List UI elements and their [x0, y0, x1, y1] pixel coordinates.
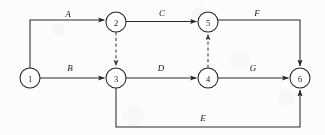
- edge-label-a: A: [64, 9, 71, 19]
- network-diagram-canvas: 1 2 3 4 5 6 A B C D E F G: [0, 0, 325, 135]
- edge-label-e: E: [199, 113, 206, 123]
- node-3[interactable]: 3: [106, 68, 126, 88]
- edge-label-g: G: [250, 63, 257, 73]
- edge-a-path: [30, 20, 105, 68]
- node-2[interactable]: 2: [106, 12, 126, 32]
- network-diagram-svg: 1 2 3 4 5 6 A B C D E F G: [0, 0, 325, 135]
- node-4[interactable]: 4: [198, 68, 218, 88]
- edge-label-b: B: [67, 63, 73, 73]
- node-5[interactable]: 5: [198, 12, 218, 32]
- node-6-label: 6: [298, 74, 302, 84]
- edge-label-d: D: [157, 63, 165, 73]
- edge-e-path: [116, 88, 300, 127]
- node-3-label: 3: [114, 74, 118, 84]
- edge-f-path: [218, 20, 300, 66]
- edge-label-f: F: [253, 8, 260, 18]
- node-5-label: 5: [206, 18, 210, 28]
- node-1[interactable]: 1: [20, 68, 40, 88]
- node-2-label: 2: [114, 18, 118, 28]
- node-6[interactable]: 6: [290, 68, 310, 88]
- node-1-label: 1: [28, 74, 32, 84]
- edge-label-c: C: [159, 8, 166, 18]
